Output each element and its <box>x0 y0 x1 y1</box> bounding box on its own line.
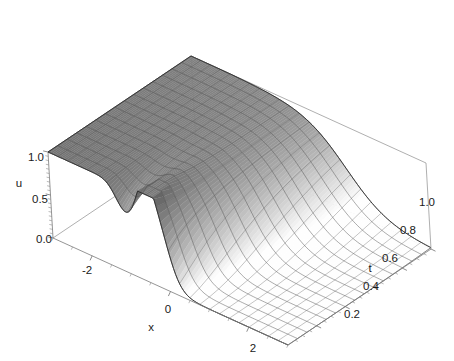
plot-canvas: 1.0 0.5 0.0 u -2 0 2 x 0.2 0.4 0.6 0.8 1… <box>0 0 454 361</box>
x-axis-title: x <box>148 321 154 333</box>
u-tick-label-1.0: 1.0 <box>28 151 44 163</box>
x-tick-label-0: 0 <box>165 303 171 315</box>
t-tick-label-0.2: 0.2 <box>344 308 360 320</box>
u-tick-label-0.0: 0.0 <box>36 233 52 245</box>
u-axis-title: u <box>16 177 22 189</box>
t-tick-label-0.8: 0.8 <box>400 224 416 236</box>
t-tick-label-0.4: 0.4 <box>363 280 380 292</box>
x-tick-label--2: -2 <box>82 264 92 276</box>
surface-plot-figure: 1.0 0.5 0.0 u -2 0 2 x 0.2 0.4 0.6 0.8 1… <box>0 0 454 361</box>
x-tick-label-2: 2 <box>250 342 256 354</box>
surface-mesh <box>48 56 431 345</box>
u-tick-label-0.5: 0.5 <box>32 193 48 205</box>
t-tick-label-0.6: 0.6 <box>382 252 398 264</box>
t-tick-label-1.0: 1.0 <box>419 196 435 208</box>
